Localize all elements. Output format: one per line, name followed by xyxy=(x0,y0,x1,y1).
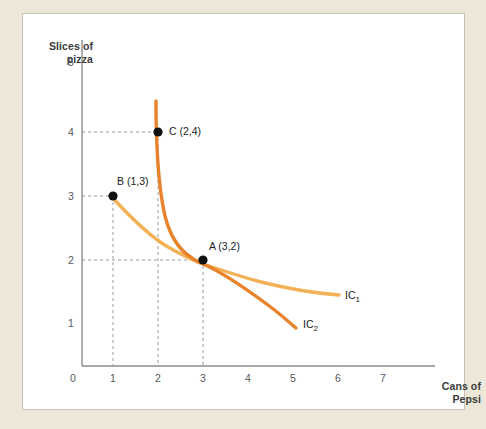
point-marker-b xyxy=(108,191,117,200)
x-tick-label-5: 5 xyxy=(283,372,303,384)
point-marker-c xyxy=(153,127,162,136)
y-tick-label-3: 3 xyxy=(61,190,81,202)
curve-label-ic2: IC2 xyxy=(303,318,318,333)
x-tick-label-0: 0 xyxy=(63,372,83,384)
indifference-curve-plot xyxy=(23,14,464,409)
point-label-c: C (2,4) xyxy=(169,125,201,137)
x-axis-title: Cans of Pepsi xyxy=(411,380,481,406)
y-tick-label-1: 1 xyxy=(61,317,81,329)
guide-lines xyxy=(82,132,203,366)
point-marker-a xyxy=(198,255,207,264)
y-tick-label-5: 5 xyxy=(61,56,81,68)
x-tick-label-7: 7 xyxy=(373,372,393,384)
x-tick-label-4: 4 xyxy=(238,372,258,384)
curve-label-ic2-text: IC xyxy=(303,318,314,330)
x-tick-label-3: 3 xyxy=(193,372,213,384)
figure-root: Slices of pizza Cans of Pepsi 5 4 3 2 1 … xyxy=(0,0,486,429)
curve-label-ic1-subscript: 1 xyxy=(356,295,360,304)
y-tick-label-2: 2 xyxy=(61,254,81,266)
point-label-a: A (3,2) xyxy=(209,240,240,252)
chart-panel: Slices of pizza Cans of Pepsi 5 4 3 2 1 … xyxy=(22,13,465,410)
curve-label-ic1-text: IC xyxy=(345,289,356,301)
y-tick-label-4: 4 xyxy=(61,126,81,138)
curve-label-ic1: IC1 xyxy=(345,289,360,304)
x-tick-label-2: 2 xyxy=(148,372,168,384)
x-tick-label-6: 6 xyxy=(328,372,348,384)
curve-label-ic2-subscript: 2 xyxy=(314,324,318,333)
point-label-b: B (1,3) xyxy=(117,175,149,187)
x-tick-label-1: 1 xyxy=(103,372,123,384)
